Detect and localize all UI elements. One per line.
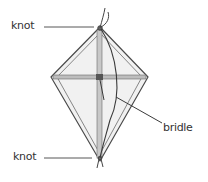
bottom-knot-label: knot xyxy=(13,151,36,162)
top-knot xyxy=(98,8,109,30)
top-knot-label: knot xyxy=(11,20,34,31)
spine-spar xyxy=(97,30,102,158)
center-knot xyxy=(96,74,103,80)
bridle-label: bridle xyxy=(163,122,193,133)
